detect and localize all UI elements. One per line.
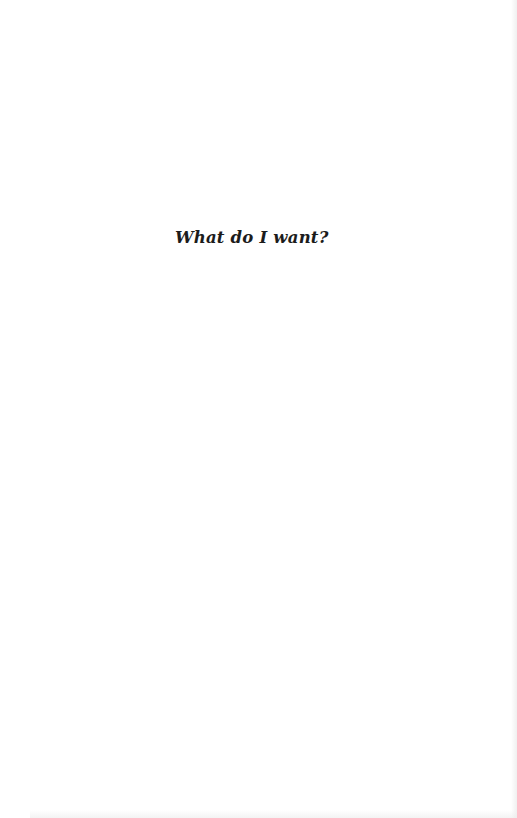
book-page: What do I want? xyxy=(0,0,517,818)
section-heading: What do I want? xyxy=(175,228,329,247)
